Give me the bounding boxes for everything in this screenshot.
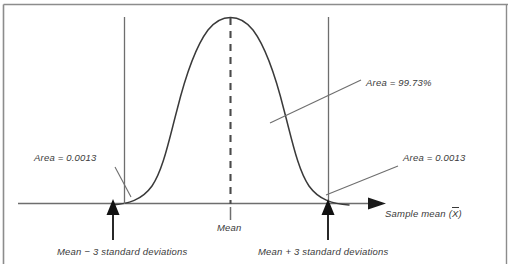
area-label-central: Area = 99.73%	[366, 77, 432, 88]
x-axis-label-prefix: Sample mean (	[385, 208, 452, 219]
x-axis-label-suffix: )	[459, 208, 462, 219]
x-axis-label: Sample mean (X)	[385, 208, 462, 219]
figure-frame	[4, 5, 509, 264]
upper-limit-label: Mean + 3 standard deviations	[258, 246, 389, 257]
area-label-right-tail: Area = 0.0013	[403, 152, 466, 163]
lower-limit-label: Mean − 3 standard deviations	[57, 246, 188, 257]
mean-label: Mean	[217, 222, 242, 233]
leader-line-area-middle	[270, 80, 361, 123]
figure-container: Area = 0.0013 Area = 99.73% Area = 0.001…	[0, 0, 509, 264]
x-bar-symbol: X	[452, 208, 459, 219]
upper-limit-arrow	[322, 199, 335, 240]
area-label-left-tail: Area = 0.0013	[34, 152, 97, 163]
normal-curve-figure	[0, 0, 509, 264]
leader-line-area-right	[326, 166, 398, 195]
leader-line-area-left	[115, 167, 131, 197]
